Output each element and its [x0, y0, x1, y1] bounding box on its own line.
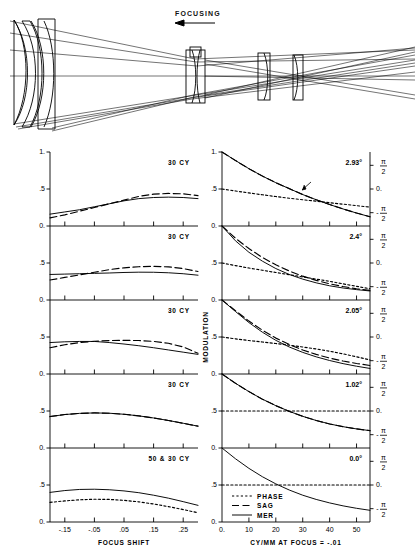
phase-axis-denominator: 2: [382, 316, 386, 323]
panel-title: 30 CY: [168, 307, 190, 314]
x-axis-title: CY/MM AT FOCUS = -.01: [250, 539, 341, 546]
phase-axis-label: 0.: [376, 333, 382, 340]
y-tick-label: 0.: [39, 222, 45, 229]
phase-axis-denominator: 2: [382, 215, 386, 222]
x-tick-label: 20: [272, 526, 280, 533]
figure-root: FOCUSING 1..50.30 CY.50.30 CY.50.30 CY.5…: [0, 0, 415, 558]
chart-panel-mtf-cymm-panel-3: .50.π20.-π22.05°: [211, 300, 387, 377]
phase-axis-denominator: 2: [382, 511, 386, 518]
chart-panel-focus-shift-panel-1: 1..50.30 CY: [39, 148, 198, 229]
phase-axis-label: π: [381, 380, 386, 387]
phase-axis-label: 0.: [376, 481, 382, 488]
panel-title: 50 & 30 CY: [148, 455, 190, 462]
y-tick-label: .5: [211, 185, 217, 192]
ray-bundle: [10, 21, 415, 131]
chart-grid: 1..50.30 CY.50.30 CY.50.30 CY.50.30 CY.5…: [0, 142, 415, 558]
chart-panel-mtf-cymm-panel-2: .50.π20.-π22.4°: [211, 226, 387, 303]
y-axis-title: MODULATION: [202, 311, 209, 363]
y-tick-label: .5: [211, 259, 217, 266]
y-tick-label: 0.: [39, 296, 45, 303]
legend-label-mer: MER: [257, 512, 274, 519]
series-mer: [50, 272, 198, 275]
phase-axis-denominator: 2: [382, 168, 386, 175]
y-tick-label: 0.: [39, 370, 45, 377]
panel-title: 30 CY: [168, 159, 190, 166]
x-axis-title: FOCUS SHIFT: [98, 539, 150, 546]
y-tick-label: .5: [39, 333, 45, 340]
phase-axis-denominator: 2: [382, 363, 386, 370]
series-mer: [50, 413, 198, 426]
y-tick-label: .5: [211, 481, 217, 488]
phase-axis-label: π: [381, 353, 386, 360]
y-tick-label: .5: [39, 185, 45, 192]
y-tick-label: 0.: [211, 222, 217, 229]
y-tick-label: 0.: [39, 444, 45, 451]
y-tick-label: 1.: [39, 148, 45, 155]
x-tick-label: 10: [245, 526, 253, 533]
y-tick-label: 0.: [39, 518, 45, 525]
phase-axis-label: π: [381, 279, 386, 286]
lens-surface-3b: [44, 21, 54, 127]
phase-axis-denominator: 2: [382, 437, 386, 444]
y-tick-label: .5: [39, 407, 45, 414]
phase-axis-label: 0.: [376, 185, 382, 192]
series-sag: [50, 413, 198, 426]
series-mer: [222, 448, 370, 510]
phase-axis-label: π: [381, 232, 386, 239]
y-tick-label: 0.: [211, 518, 217, 525]
y-tick-label: 0.: [211, 370, 217, 377]
legend-label-sag: SAG: [257, 502, 274, 509]
x-tick-label: -.15: [59, 526, 71, 533]
focusing-label: FOCUSING: [175, 10, 221, 17]
series-phase: [50, 499, 198, 513]
panel-title: 2.05°: [346, 307, 363, 314]
panel-title: 2.93°: [346, 159, 363, 166]
phase-axis-label: 0.: [376, 407, 382, 414]
panel-title: 2.4°: [349, 233, 362, 240]
x-tick-label: .05: [119, 526, 129, 533]
y-tick-label: .5: [39, 481, 45, 488]
phase-axis-sign: -: [376, 431, 379, 438]
phase-axis-label: 0.: [376, 259, 382, 266]
y-tick-label: .5: [211, 407, 217, 414]
series-mer: [50, 489, 198, 505]
x-tick-label: .25: [178, 526, 188, 533]
panel-title: 30 CY: [168, 233, 190, 240]
x-tick-label: 50: [353, 526, 361, 533]
x-tick-label: -.05: [88, 526, 100, 533]
phase-axis-label: π: [381, 501, 386, 508]
phase-axis-label: π: [381, 158, 386, 165]
phase-axis-sign: -: [376, 209, 379, 216]
phase-axis-label: π: [381, 306, 386, 313]
phase-axis-label: π: [381, 454, 386, 461]
x-tick-label: 40: [326, 526, 334, 533]
panel-title: 0.0°: [349, 455, 362, 462]
panel-title: 1.02°: [346, 381, 363, 388]
phase-axis-denominator: 2: [382, 289, 386, 296]
chart-panel-focus-shift-panel-4: .50.30 CY: [39, 374, 198, 451]
y-tick-label: 1.: [211, 148, 217, 155]
legend: PHASESAGMER: [232, 493, 283, 519]
phase-axis-sign: -: [376, 283, 379, 290]
phase-axis-denominator: 2: [382, 242, 386, 249]
callout-arrowhead: [302, 185, 306, 190]
callout-pointer-icon: [302, 182, 311, 190]
chart-panel-focus-shift-panel-3: .50.30 CY: [39, 300, 198, 377]
y-tick-label: 0.: [211, 296, 217, 303]
legend-label-phase: PHASE: [257, 493, 283, 500]
series-mer: [222, 226, 370, 291]
series-phase: [222, 263, 370, 289]
lens-surface-1a: [14, 20, 26, 125]
phase-axis-sign: -: [376, 357, 379, 364]
chart-panel-focus-shift-panel-2: .50.30 CY: [39, 226, 198, 303]
phase-axis-label: π: [381, 427, 386, 434]
x-tick-label: 0.: [219, 526, 225, 533]
chart-panel-mtf-cymm-panel-4: .50.π20.-π21.02°: [211, 374, 387, 451]
lens-ray-trace-diagram: FOCUSING: [0, 0, 415, 140]
chart-panel-mtf-cymm-panel-5: .50.π20.-π20.0°: [211, 448, 387, 525]
y-tick-label: 0.: [211, 444, 217, 451]
series-phase: [222, 337, 370, 360]
y-tick-label: .5: [211, 333, 217, 340]
y-tick-label: .5: [39, 259, 45, 266]
phase-axis-denominator: 2: [382, 464, 386, 471]
